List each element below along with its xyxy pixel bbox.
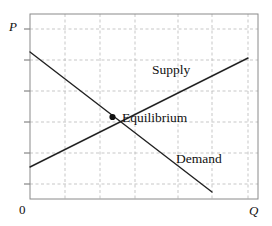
- equilibrium-point-marker: [109, 114, 115, 120]
- plot-background: [30, 14, 258, 199]
- y-axis-label: P: [9, 20, 17, 33]
- y-axis-ticks: [24, 29, 30, 184]
- equilibrium-label: Equilibrium: [122, 111, 187, 125]
- demand-curve-label: Demand: [176, 152, 222, 166]
- x-axis-label: Q: [249, 204, 258, 217]
- supply-demand-figure: P Q 0 Supply Equilibrium Demand: [0, 0, 272, 226]
- supply-curve-label: Supply: [152, 63, 190, 77]
- origin-label: 0: [19, 203, 26, 216]
